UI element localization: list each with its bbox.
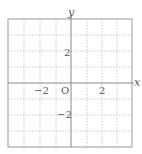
x-axis-label: x <box>134 76 141 89</box>
x-tick-label-2: 2 <box>99 85 105 96</box>
x-tick-label-neg2: −2 <box>34 85 49 96</box>
coordinate-plane: y x O −2 2 2 −2 <box>0 0 142 154</box>
y-tick-label-2: 2 <box>64 47 70 58</box>
y-axis-label: y <box>67 6 75 19</box>
y-tick-label-neg2: −2 <box>57 109 72 120</box>
origin-label: O <box>61 85 69 96</box>
